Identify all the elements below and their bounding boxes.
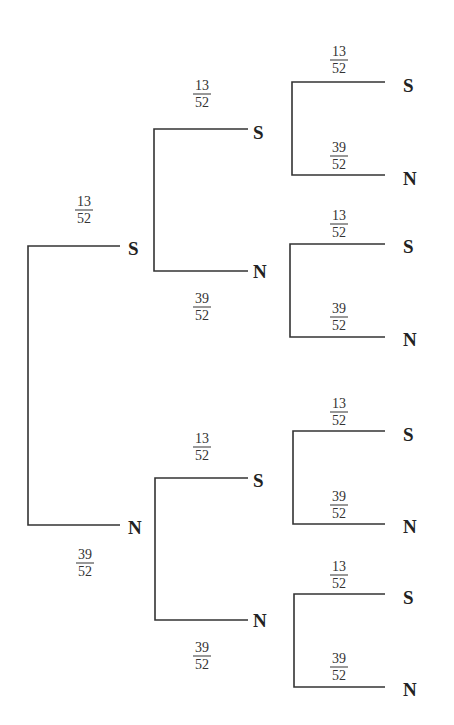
node-l3-SSN: N bbox=[403, 169, 417, 188]
fraction-numerator: 13 bbox=[330, 560, 348, 576]
probability-fraction: 3952 bbox=[330, 490, 348, 521]
probability-fraction: 1352 bbox=[75, 195, 93, 226]
fraction-numerator: 13 bbox=[193, 79, 211, 95]
node-l3-NSN: N bbox=[403, 517, 417, 536]
fraction-numerator: 39 bbox=[76, 548, 94, 564]
probability-fraction: 1352 bbox=[330, 397, 348, 428]
fraction-denominator: 52 bbox=[78, 564, 92, 579]
probability-fraction: 1352 bbox=[193, 432, 211, 463]
probability-fraction: 1352 bbox=[193, 79, 211, 110]
fraction-denominator: 52 bbox=[332, 61, 346, 76]
probability-fraction: 1352 bbox=[330, 560, 348, 591]
fraction-numerator: 39 bbox=[330, 490, 348, 506]
node-l2-SN: N bbox=[253, 262, 267, 281]
fraction-denominator: 52 bbox=[332, 576, 346, 591]
fraction-denominator: 52 bbox=[77, 211, 91, 226]
node-l3-NSS: S bbox=[403, 425, 414, 444]
node-l2-SS: S bbox=[253, 123, 264, 142]
fraction-numerator: 13 bbox=[330, 45, 348, 61]
fraction-numerator: 39 bbox=[193, 292, 211, 308]
probability-fraction: 1352 bbox=[330, 209, 348, 240]
node-l2-NN: N bbox=[253, 611, 267, 630]
root-bracket bbox=[28, 246, 120, 525]
fraction-denominator: 52 bbox=[332, 413, 346, 428]
probability-fraction: 3952 bbox=[193, 641, 211, 672]
fraction-numerator: 13 bbox=[75, 195, 93, 211]
bracket-after-S bbox=[154, 129, 248, 271]
fraction-denominator: 52 bbox=[332, 225, 346, 240]
fraction-denominator: 52 bbox=[332, 157, 346, 172]
node-l1-S: S bbox=[128, 239, 139, 258]
probability-fraction: 3952 bbox=[330, 302, 348, 333]
probability-fraction: 3952 bbox=[330, 652, 348, 683]
node-l3-NNS: S bbox=[403, 588, 414, 607]
node-l3-SNS: S bbox=[403, 237, 414, 256]
fraction-numerator: 39 bbox=[330, 302, 348, 318]
probability-fraction: 3952 bbox=[76, 548, 94, 579]
node-l3-SNN: N bbox=[403, 330, 417, 349]
fraction-denominator: 52 bbox=[195, 308, 209, 323]
fraction-denominator: 52 bbox=[332, 506, 346, 521]
bracket-after-N bbox=[155, 478, 248, 620]
node-l3-NNN: N bbox=[403, 680, 417, 699]
fraction-numerator: 13 bbox=[193, 432, 211, 448]
fraction-numerator: 13 bbox=[330, 209, 348, 225]
node-l1-N: N bbox=[128, 518, 142, 537]
probability-fraction: 3952 bbox=[330, 141, 348, 172]
fraction-denominator: 52 bbox=[332, 318, 346, 333]
fraction-denominator: 52 bbox=[195, 448, 209, 463]
fraction-numerator: 39 bbox=[193, 641, 211, 657]
fraction-numerator: 39 bbox=[330, 652, 348, 668]
fraction-denominator: 52 bbox=[195, 95, 209, 110]
fraction-denominator: 52 bbox=[332, 668, 346, 683]
fraction-numerator: 13 bbox=[330, 397, 348, 413]
fraction-denominator: 52 bbox=[195, 657, 209, 672]
fraction-numerator: 39 bbox=[330, 141, 348, 157]
probability-fraction: 1352 bbox=[330, 45, 348, 76]
node-l3-SSS: S bbox=[403, 76, 414, 95]
tree-lines bbox=[0, 0, 454, 725]
probability-fraction: 3952 bbox=[193, 292, 211, 323]
node-l2-NS: S bbox=[253, 471, 264, 490]
